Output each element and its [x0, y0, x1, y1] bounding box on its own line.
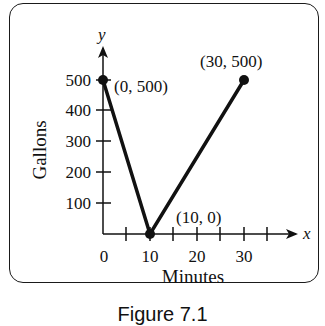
figure-caption: Figure 7.1: [0, 303, 325, 326]
data-point-30-500: [239, 75, 249, 85]
svg-text:200: 200: [66, 163, 92, 182]
svg-text:30: 30: [236, 247, 253, 266]
data-line: [103, 80, 244, 234]
line-chart: y x 500 400 300 200 100 0 10 20 30 Minut…: [0, 0, 325, 326]
svg-text:0: 0: [100, 247, 109, 266]
x-axis-letter: x: [302, 224, 311, 243]
data-point-10-0: [145, 229, 155, 239]
svg-text:300: 300: [66, 132, 92, 151]
svg-text:10: 10: [142, 247, 159, 266]
annotation-0-500: (0, 500): [114, 77, 168, 96]
y-axis-letter: y: [96, 25, 106, 44]
x-axis-title: Minutes: [162, 266, 224, 287]
svg-text:500: 500: [66, 71, 92, 90]
x-tick-labels: 0 10 20 30: [100, 247, 253, 266]
data-point-0-500: [98, 75, 108, 85]
svg-text:100: 100: [66, 194, 92, 213]
y-tick-labels: 500 400 300 200 100: [66, 71, 92, 213]
annotation-10-0: (10, 0): [176, 208, 221, 227]
annotation-30-500: (30, 500): [200, 52, 262, 71]
svg-text:400: 400: [66, 101, 92, 120]
svg-text:20: 20: [189, 247, 206, 266]
y-axis-title: Gallons: [29, 120, 50, 179]
